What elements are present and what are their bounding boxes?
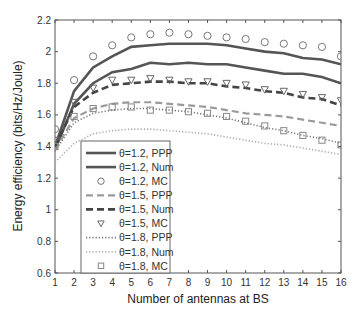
y-tick-label: 2.2 (37, 15, 51, 26)
legend: θ=1.2, PPPθ=1.2, Numθ=1.2, MCθ=1.5, PPPθ… (81, 141, 174, 273)
legend-label: θ=1.5, MC (119, 217, 168, 229)
y-tick-label: 1 (45, 204, 51, 215)
y-tick-label: 0.8 (37, 236, 51, 247)
legend-label: θ=1.8, PPP (119, 231, 172, 243)
x-tick-label: 6 (148, 277, 154, 288)
energy-efficiency-chart: 123456789101112131415160.60.811.21.41.61… (0, 0, 361, 313)
x-tick-label: 7 (167, 277, 173, 288)
legend-label: θ=1.5, PPP (119, 189, 172, 201)
y-tick-label: 1.8 (37, 78, 51, 89)
x-tick-label: 16 (335, 277, 347, 288)
x-tick-label: 12 (259, 277, 271, 288)
legend-label: θ=1.2, Num (119, 161, 174, 173)
x-tick-label: 13 (278, 277, 290, 288)
y-tick-label: 1.2 (37, 173, 51, 184)
y-tick-label: 1.6 (37, 109, 51, 120)
x-tick-label: 14 (297, 277, 309, 288)
y-tick-label: 0.6 (37, 268, 51, 279)
x-tick-label: 9 (205, 277, 211, 288)
legend-label: θ=1.8, Num (119, 246, 174, 258)
x-tick-label: 15 (316, 277, 328, 288)
y-tick-label: 1.4 (37, 141, 51, 152)
y-axis-label: Energy efficiency (bits/Hz/Joule) (11, 60, 25, 231)
x-tick-label: 10 (221, 277, 233, 288)
legend-label: θ=1.5, Num (119, 203, 174, 215)
x-tick-label: 3 (90, 277, 96, 288)
legend-label: θ=1.2, MC (119, 175, 168, 187)
x-tick-label: 1 (52, 277, 58, 288)
x-tick-label: 4 (109, 277, 115, 288)
legend-label: θ=1.8, MC (119, 260, 168, 272)
x-tick-label: 11 (240, 277, 251, 288)
x-axis-label: Number of antennas at BS (127, 292, 268, 306)
x-tick-label: 8 (186, 277, 192, 288)
x-tick-label: 2 (71, 277, 77, 288)
x-tick-label: 5 (128, 277, 134, 288)
legend-label: θ=1.2, PPP (119, 147, 172, 159)
y-tick-label: 2 (45, 46, 51, 57)
